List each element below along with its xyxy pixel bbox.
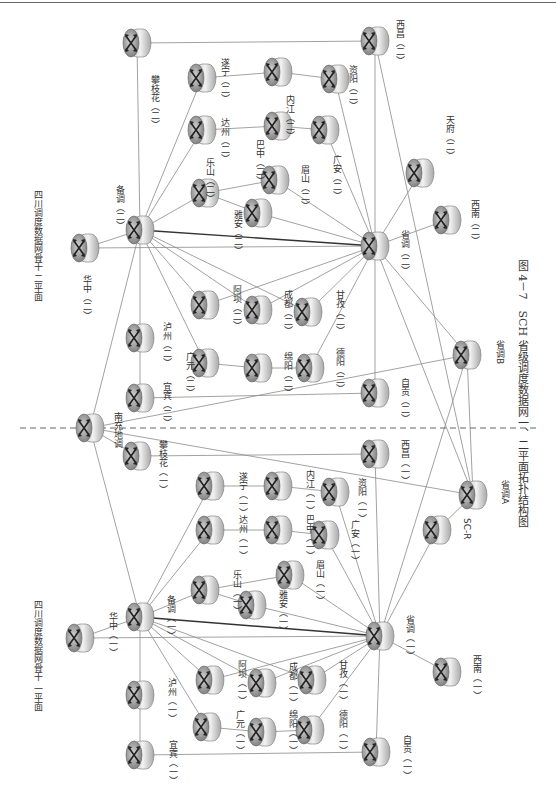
node-label-shengdiao2: 省调（二） [400,230,409,275]
router-tianfu2 [406,159,434,187]
link-huazhong2-shengdiao2 [85,246,375,248]
node-label-beidiao2: 备调（二） [115,185,124,230]
router-panzhihua2 [123,29,151,57]
router-meishan1 [276,561,304,589]
node-label-guangyuan2: 广元（二） [185,352,194,397]
router-ganzi2 [294,298,322,326]
router-icon [126,741,154,769]
node-label-ziyang2: 资阳（二） [348,65,357,110]
node-label-panzhihua1: 攀枝花（一） [158,440,167,494]
router-deyang2 [296,354,324,382]
node-label-aba2: 阿坝（二） [232,285,241,330]
router-scr [423,516,451,544]
router-icon [123,29,151,57]
router-guangan1 [311,521,339,549]
node-label-dazhou1: 达州（一） [238,515,247,560]
link-xichang1-shengdiao1 [375,454,380,636]
router-icon [311,521,339,549]
router-icon [361,27,389,55]
link-huazhong1-shengdiao1 [80,636,380,638]
router-ziyang2 [321,65,349,93]
link-panzhihua2-beidiao2 [137,43,140,230]
node-label-scr: SC-R [462,518,471,540]
link-beidiao1-shengdiao1 [140,617,380,636]
router-icon [126,324,154,352]
router-icon [196,516,224,544]
router-icon [191,349,219,377]
router-zigong2 [361,379,389,407]
link-shengdiaoA-shengdiaoB [467,355,473,495]
router-dazhou1 [196,516,224,544]
node-label-mianyang1: 绵阳（一） [288,710,297,755]
node-label-meishan1: 眉山（一） [315,560,324,605]
router-chengdu2 [244,296,272,324]
node-label-luzhou1: 泸州（一） [167,678,176,723]
link-meishan2-shengdiao2 [275,180,375,246]
router-xichang2 [361,27,389,55]
router-ziyang1 [321,478,349,506]
node-label-luzhou2: 泸州（二） [162,322,171,367]
router-suining2 [188,64,216,92]
router-guangyuan1 [193,713,221,741]
router-beidiao1 [126,603,154,631]
router-icon [362,738,390,766]
node-label-leshan1: 乐山（一） [232,570,241,615]
router-neijiang1 [264,472,292,500]
router-chengdu1 [248,669,276,697]
router-icon [191,291,219,319]
router-icon [311,116,339,144]
router-icon [188,64,216,92]
router-icon [261,166,289,194]
router-yibin1 [126,741,154,769]
node-label-zigong2: 自贡（二） [400,378,409,423]
router-icon [423,516,451,544]
router-icon [296,716,324,744]
node-label-deyang2: 德阳（二） [335,348,344,393]
router-icon [66,624,94,652]
router-luzhou1 [126,681,154,709]
router-icon [264,58,292,86]
node-label-tianfu2: 天府（二） [445,115,454,160]
node-label-xichang2: 西昌（二） [395,20,404,65]
router-icon [244,199,272,227]
router-xichang1 [361,440,389,468]
node-label-aba1: 阿坝（一） [237,660,246,705]
link-shengdiao2-shengdiaoA [375,246,473,495]
router-icon [248,669,276,697]
link-yaan2-shengdiao2 [258,213,375,246]
router-mianyang1 [248,718,276,746]
link-beidiao2-shengdiao2 [140,230,375,246]
node-label-huazhong2: 华中（二） [82,275,91,320]
router-leshan1 [191,576,219,604]
node-label-yibin2: 宜宾（二） [162,382,171,427]
router-luzhou2 [126,324,154,352]
router-icon [264,472,292,500]
router-xinan1 [433,658,461,686]
router-shengdiao1 [366,622,394,650]
router-icon [188,116,216,144]
router-icon [406,159,434,187]
router-icon [264,516,292,544]
link-beidiao2-dazhou2 [140,130,202,230]
router-shengdiaoA [459,481,487,509]
router-icon [123,442,151,470]
link-panzhihua2-xichang2 [137,41,375,43]
plane2-label: 四川调度数据网骨干 二平面 [32,190,43,301]
router-dazhou2 [188,116,216,144]
router-aba1 [196,666,224,694]
node-label-shengdiao1: 省调（一） [405,615,414,660]
router-yibin2 [126,384,154,412]
router-icon [193,713,221,741]
router-huazhong2 [71,234,99,262]
node-label-yaan1: 雅安（一） [278,590,287,635]
node-label-shengdiaoA: 省调A [500,480,509,504]
router-icon [361,232,389,260]
router-suining1 [196,472,224,500]
router-icon [366,622,394,650]
link-xichang2-shengdiaoA [375,41,473,495]
node-label-bazhong1: 巴中（一） [305,515,314,560]
router-icon [321,65,349,93]
router-icon [126,216,154,244]
node-label-neijiang1: 内江（一） [305,470,314,515]
node-label-ganzi2: 甘孜（二） [335,290,344,335]
